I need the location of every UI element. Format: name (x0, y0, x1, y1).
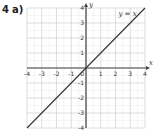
svg-text:4: 4 (143, 70, 147, 77)
svg-text:2: 2 (80, 34, 84, 41)
svg-text:-1: -1 (78, 79, 84, 86)
svg-text:-1: -1 (68, 70, 74, 77)
svg-text:-4: -4 (78, 124, 84, 131)
x-axis-label: x (149, 59, 153, 67)
svg-text:-3: -3 (78, 109, 84, 116)
svg-text:-3: -3 (39, 70, 45, 77)
svg-text:3: 3 (80, 19, 84, 26)
svg-text:2: 2 (114, 70, 118, 77)
svg-text:-2: -2 (54, 70, 60, 77)
coordinate-grid-chart: -4-3-2-112344321-1-2-3-4 x y y = x 0 (0, 0, 154, 133)
svg-text:1: 1 (99, 70, 103, 77)
svg-text:1: 1 (80, 49, 84, 56)
svg-text:-4: -4 (24, 70, 30, 77)
svg-text:3: 3 (128, 70, 132, 77)
svg-text:-2: -2 (78, 94, 84, 101)
origin-label: 0 (80, 70, 84, 77)
equation-label: y = x (117, 10, 136, 18)
svg-text:4: 4 (80, 4, 84, 11)
